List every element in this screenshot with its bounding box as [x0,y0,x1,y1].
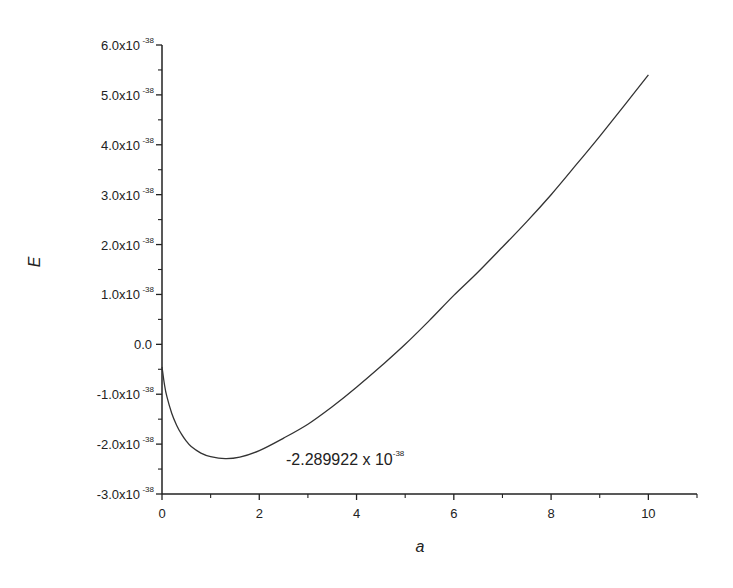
y-tick-exponent: -38 [142,86,154,95]
y-tick-label: 5.0x10 [101,88,140,103]
x-axis-title: a [416,538,425,555]
x-axis-ticks: 0246810 [158,494,697,521]
x-tick-label: 10 [641,506,655,521]
y-tick-label: 1.0x10 [101,287,140,302]
energy-curve [162,75,648,459]
y-tick-label: -1.0x10 [97,387,140,402]
y-tick-exponent: -38 [142,285,154,294]
y-tick-exponent: -38 [142,136,154,145]
x-tick-label: 8 [547,506,554,521]
y-tick-exponent: -38 [142,236,154,245]
x-tick-label: 2 [256,506,263,521]
y-axis-title: E [26,256,43,267]
x-tick-label: 0 [158,506,165,521]
y-tick-exponent: -38 [142,485,154,494]
axes [162,45,697,494]
y-tick-label: 0.0 [134,337,152,352]
x-tick-label: 4 [353,506,360,521]
y-tick-exponent: -38 [142,36,154,45]
energy-vs-a-chart: 6.0x10-385.0x10-384.0x10-383.0x10-382.0x… [0,0,733,588]
y-tick-label: 4.0x10 [101,138,140,153]
y-tick-label: 3.0x10 [101,188,140,203]
y-tick-exponent: -38 [142,186,154,195]
y-tick-label: 6.0x10 [101,38,140,53]
y-tick-exponent: -38 [142,385,154,394]
x-tick-label: 6 [450,506,457,521]
y-axis-ticks: 6.0x10-385.0x10-384.0x10-383.0x10-382.0x… [97,36,162,502]
minimum-annotation: -2.289922 x 10-38 [286,449,405,468]
y-tick-label: -3.0x10 [97,487,140,502]
y-tick-label: 2.0x10 [101,238,140,253]
y-tick-exponent: -38 [142,435,154,444]
y-tick-label: -2.0x10 [97,437,140,452]
